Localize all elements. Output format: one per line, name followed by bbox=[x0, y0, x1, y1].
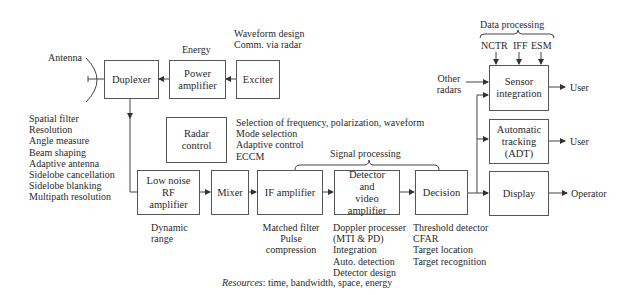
energy-label: Energy bbox=[182, 44, 211, 55]
exciter-block: Exciter bbox=[236, 60, 280, 99]
waveform-label: Waveform design Comm. via radar bbox=[234, 28, 305, 50]
resources-title: Resources bbox=[222, 277, 263, 288]
sensor-integration-block: Sensor integration bbox=[489, 65, 549, 111]
detector-notes-label: Doppler processer (MTI & PD) Integration… bbox=[333, 222, 406, 278]
if-notes-label: Matched filter Pulse compression bbox=[254, 222, 328, 256]
esm-label: ESM bbox=[531, 40, 552, 51]
resources-caption: Resources: time, bandwidth, space, energ… bbox=[222, 277, 392, 288]
detector-block: Detector and video amplifier bbox=[334, 170, 400, 215]
radar-control-block: Radar control bbox=[166, 117, 227, 163]
adt-block: Automatic tracking (ADT) bbox=[489, 119, 549, 164]
antenna-functions-label: Spatial filter Resolution Angle measure … bbox=[29, 113, 115, 203]
user-label-1: User bbox=[570, 82, 589, 93]
mixer-block: Mixer bbox=[211, 170, 249, 215]
lna-block: Low noise RF amplifier bbox=[137, 170, 200, 215]
decision-block: Decision bbox=[415, 170, 468, 215]
user-label-2: User bbox=[570, 136, 589, 147]
nctr-label: NCTR bbox=[481, 40, 508, 51]
operator-label: Operator bbox=[571, 188, 607, 199]
display-block: Display bbox=[489, 171, 549, 216]
if-amplifier-block: IF amplifier bbox=[257, 170, 323, 215]
power-amplifier-block: Power amplifier bbox=[169, 60, 226, 99]
signal-processing-label: Signal processing bbox=[330, 148, 401, 159]
duplexer-block: Duplexer bbox=[104, 60, 159, 99]
decision-notes-label: Threshold detector CFAR Target location … bbox=[413, 222, 488, 267]
iff-label: IFF bbox=[513, 40, 527, 51]
dynamic-range-label: Dynamic range bbox=[151, 222, 188, 244]
other-radars-label: Other radars bbox=[434, 73, 464, 95]
data-processing-label: Data processing bbox=[480, 19, 544, 30]
resources-text: : time, bandwidth, space, energy bbox=[263, 277, 393, 288]
antenna-label: Antenna bbox=[48, 52, 82, 63]
